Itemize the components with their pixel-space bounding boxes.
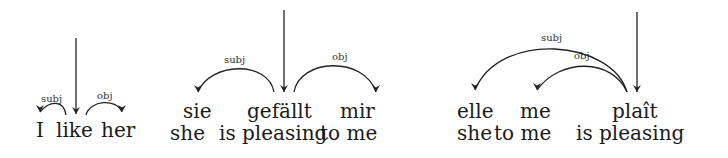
word-like: like (56, 118, 93, 142)
subj-arc (198, 69, 274, 92)
gloss-is-pleasing: is pleasing (576, 121, 685, 145)
obj-label: obj (97, 90, 113, 101)
obj-label: obj (332, 51, 348, 62)
obj-label: obj (574, 50, 590, 61)
word-sie: sie (183, 99, 212, 123)
gloss-to-me: to me (494, 121, 551, 145)
english-diagram: subj obj I like her (36, 38, 136, 142)
obj-arc (86, 103, 122, 115)
gloss-she: she (170, 121, 205, 145)
subj-label: subj (224, 54, 245, 65)
word-her: her (101, 118, 136, 142)
subj-label: subj (541, 32, 562, 43)
subj-arc (40, 103, 66, 115)
word-me: me (520, 99, 551, 123)
gloss-she: she (457, 121, 492, 145)
word-i: I (36, 118, 44, 142)
french-diagram: subj obj elle me plaît she to me is plea… (457, 12, 685, 145)
word-mir: mir (340, 99, 375, 123)
dependency-diagrams: subj obj I like her subj obj sie gefällt… (0, 0, 728, 158)
word-gefallt: gefällt (247, 99, 312, 123)
subj-label: subj (41, 93, 62, 104)
gloss-to-me: to me (320, 121, 377, 145)
gloss-is-pleasing: is pleasing (219, 121, 328, 145)
word-plait: plaît (612, 99, 658, 123)
german-diagram: subj obj sie gefällt mir she is pleasing… (170, 10, 377, 145)
obj-arc (294, 66, 376, 92)
word-elle: elle (457, 99, 493, 123)
